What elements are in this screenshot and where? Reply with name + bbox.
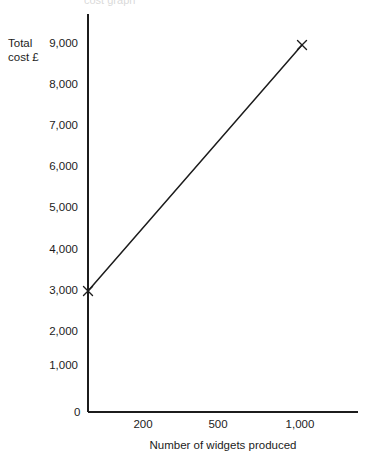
origin-tick-label-0: 0 (74, 406, 80, 419)
y-tick-label-8000: 8,000 (32, 78, 78, 91)
y-tick-label-4000: 4,000 (32, 243, 78, 256)
plot-area (0, 0, 368, 464)
y-tick-label-1000: 1,000 (32, 359, 78, 372)
total-cost-line-chart: cost graph Total cost £ 9,000 8,000 7,00… (0, 0, 368, 464)
total-cost-line (88, 45, 302, 291)
y-tick-label-3000: 3,000 (32, 284, 78, 297)
data-point-marker-end (298, 41, 307, 50)
x-tick-label-200: 200 (117, 418, 169, 431)
y-tick-label-5000: 5,000 (32, 201, 78, 214)
x-tick-label-1000: 1,000 (274, 418, 326, 431)
y-tick-label-9000: 9,000 (32, 37, 78, 50)
y-axis-title-line-2: cost £ (8, 51, 52, 65)
y-tick-label-6000: 6,000 (32, 160, 78, 173)
y-tick-label-7000: 7,000 (32, 119, 78, 132)
x-tick-label-500: 500 (192, 418, 244, 431)
y-tick-label-2000: 2,000 (32, 325, 78, 338)
x-axis-title: Number of widgets produced (88, 439, 358, 451)
